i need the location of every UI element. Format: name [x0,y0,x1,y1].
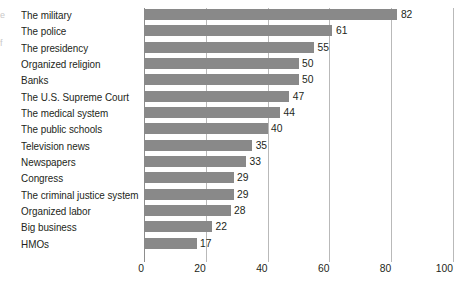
bar-value-label: 40 [268,122,283,135]
category-label: Big business [0,220,126,236]
x-tick-label-80: 80 [351,262,394,276]
category-label: The military [0,8,126,24]
bar [144,189,234,200]
x-axis: 020406080100 [144,262,453,283]
category-label: Organized labor [0,204,126,220]
category-label: The medical system [0,106,126,122]
category-label: The criminal justice system [0,188,126,204]
bar-value-label: 61 [332,24,347,37]
bar-row: 17 [144,237,453,253]
bar-row: 35 [144,139,453,155]
category-label: Congress [0,171,126,187]
category-label: The U.S. Supreme Court [0,90,126,106]
x-tick-label-0: 0 [104,262,147,276]
category-label: The police [0,24,126,40]
bar [144,156,246,167]
bar [144,123,268,134]
bar [144,42,314,53]
gridline-100 [453,8,454,262]
bar-row: 50 [144,57,453,73]
x-tick-label-100: 100 [413,262,456,276]
category-label: Organized religion [0,57,126,73]
bar-value-label: 33 [246,155,261,168]
bar-row: 61 [144,24,453,40]
bar-row: 22 [144,220,453,236]
category-label: The presidency [0,41,126,57]
bar-value-label: 50 [299,57,314,70]
bar [144,107,280,118]
category-label: Banks [0,73,126,89]
bar [144,9,397,20]
bar [144,238,197,249]
bar-value-label: 22 [212,220,227,233]
plot-area: 826155505047444035332929282217 [144,8,453,253]
bar-value-label: 17 [197,237,212,250]
bar-row: 55 [144,41,453,57]
bar-row: 33 [144,155,453,171]
bar-value-label: 82 [397,8,412,21]
bar-value-label: 29 [234,171,249,184]
bar-row: 40 [144,122,453,138]
bar-row: 29 [144,171,453,187]
x-tick-label-60: 60 [289,262,332,276]
bar-row: 29 [144,188,453,204]
bar-value-label: 28 [231,204,246,217]
x-tick-label-40: 40 [228,262,271,276]
bar-row: 47 [144,90,453,106]
bar [144,140,252,151]
bar-chart: e f The militaryThe policeThe presidency… [0,0,467,283]
bar-value-label: 55 [314,41,329,54]
bar-row: 44 [144,106,453,122]
category-label: The public schools [0,122,126,138]
category-label: Television news [0,139,126,155]
bar [144,91,289,102]
bar-row: 28 [144,204,453,220]
bar-value-label: 44 [280,106,295,119]
bar-value-label: 50 [299,73,314,86]
bar-value-label: 35 [252,139,267,152]
bar [144,74,299,85]
bar-value-label: 29 [234,188,249,201]
bar [144,58,299,69]
bar-row: 82 [144,8,453,24]
bar [144,221,212,232]
category-axis-labels: The militaryThe policeThe presidencyOrga… [0,8,134,253]
category-label: HMOs [0,237,126,253]
bar [144,205,231,216]
bar-row: 50 [144,73,453,89]
category-label: Newspapers [0,155,126,171]
bar [144,25,332,36]
x-tick-label-20: 20 [166,262,209,276]
bar [144,172,234,183]
bar-value-label: 47 [289,90,304,103]
